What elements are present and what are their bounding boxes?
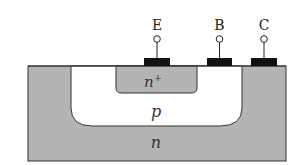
n-label: n xyxy=(151,133,161,152)
base-label: B xyxy=(214,17,224,33)
base-terminal-icon xyxy=(216,36,223,43)
collector-contact xyxy=(251,58,277,66)
collector-label: C xyxy=(259,17,270,33)
emitter-contact xyxy=(144,58,170,66)
collector-terminal-icon xyxy=(261,36,268,43)
bjt-diagram: E B C n+ p n xyxy=(0,0,308,165)
base-contact xyxy=(207,58,232,66)
emitter-label: E xyxy=(152,17,162,33)
p-label: p xyxy=(151,102,161,121)
emitter-terminal-icon xyxy=(154,36,161,43)
